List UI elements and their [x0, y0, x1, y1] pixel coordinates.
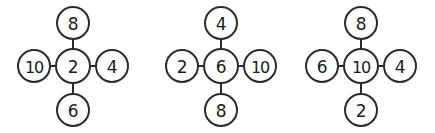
- node-right-label: 4: [107, 57, 117, 77]
- node-center-label: 6: [216, 57, 226, 77]
- node-center-label: 10: [352, 58, 371, 77]
- node-right-label: 4: [395, 57, 405, 77]
- number-cluster-1: 8 6 10 4 2: [0, 0, 145, 133]
- node-left-label: 6: [317, 57, 327, 77]
- node-center-label: 2: [68, 57, 78, 77]
- node-left-label: 10: [25, 58, 44, 77]
- number-cluster-3: 8 2 6 4 10: [288, 0, 433, 133]
- node-left-label: 2: [177, 57, 187, 77]
- number-cluster-worksheet: 8 6 10 4 2 4 8 2 10 6: [0, 0, 435, 133]
- node-bottom-label: 2: [356, 101, 366, 121]
- number-cluster-2: 4 8 2 10 6: [148, 0, 293, 133]
- node-top-label: 8: [356, 14, 366, 34]
- node-right-label: 10: [251, 58, 270, 77]
- node-top-label: 8: [68, 14, 78, 34]
- node-bottom-label: 6: [68, 101, 78, 121]
- node-top-label: 4: [216, 14, 226, 34]
- node-bottom-label: 8: [216, 101, 226, 121]
